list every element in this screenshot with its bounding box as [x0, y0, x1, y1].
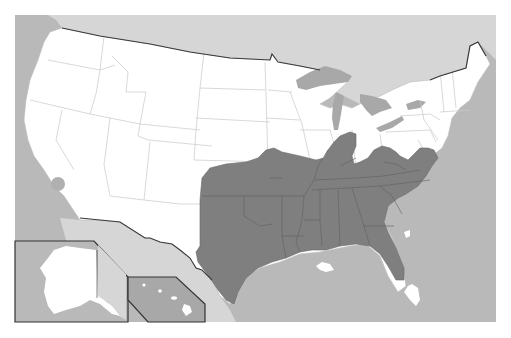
- hawaii-island-oahu: [158, 289, 162, 293]
- hawaii-island-maui: [171, 296, 177, 300]
- map-svg: [0, 0, 511, 338]
- hawaii-island-kauai: [142, 283, 145, 286]
- circle-marker: [51, 177, 65, 191]
- us-map: [0, 0, 511, 338]
